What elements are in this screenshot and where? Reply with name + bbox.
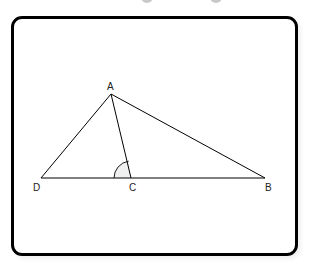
label-c: C (129, 182, 136, 193)
segment-ad (41, 94, 111, 178)
triangle-diagram: A D C B (0, 0, 311, 266)
label-a: A (107, 81, 114, 92)
label-d: D (33, 182, 40, 193)
segment-ab (111, 94, 265, 178)
label-b: B (265, 182, 272, 193)
